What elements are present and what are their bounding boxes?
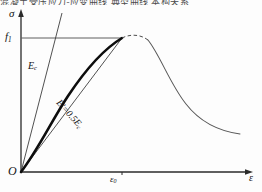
descending-branch-curve bbox=[148, 40, 240, 134]
secant-modulus-line bbox=[21, 38, 122, 172]
stress-strain-figure: 混凝土受压应力-应变曲线 典型曲线 本构关系 σ ε f1 O ε0 bbox=[0, 0, 262, 192]
peak-plateau-dashed bbox=[122, 35, 148, 40]
y-tick-label-f1: f1 bbox=[5, 30, 12, 44]
ec-subscript: c bbox=[34, 64, 37, 71]
f1-subscript: 1 bbox=[8, 36, 12, 44]
x-axis-label: ε bbox=[249, 172, 253, 183]
y-axis bbox=[18, 9, 24, 172]
x-tick-label-eps0: ε0 bbox=[110, 174, 117, 184]
origin-label: O bbox=[8, 164, 17, 179]
y-axis-label: σ bbox=[9, 7, 14, 19]
tangent-modulus-label: Ec bbox=[28, 60, 37, 71]
tangent-modulus-line bbox=[21, 13, 62, 172]
x-axis bbox=[21, 169, 253, 175]
eps0-subscript: 0 bbox=[114, 178, 117, 184]
stress-strain-plot bbox=[0, 0, 262, 192]
